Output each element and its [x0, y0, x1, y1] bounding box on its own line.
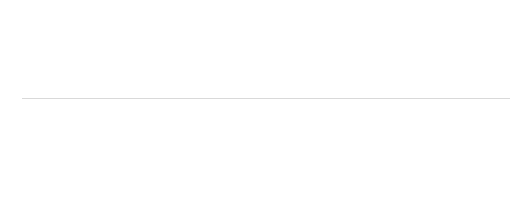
x-axis-labels: [22, 101, 510, 163]
y-axis-labels: [0, 28, 20, 99]
bar-series-group: [22, 28, 510, 99]
x-axis-line: [22, 98, 510, 99]
chart-container: [0, 0, 514, 217]
plot-area: [22, 28, 510, 99]
